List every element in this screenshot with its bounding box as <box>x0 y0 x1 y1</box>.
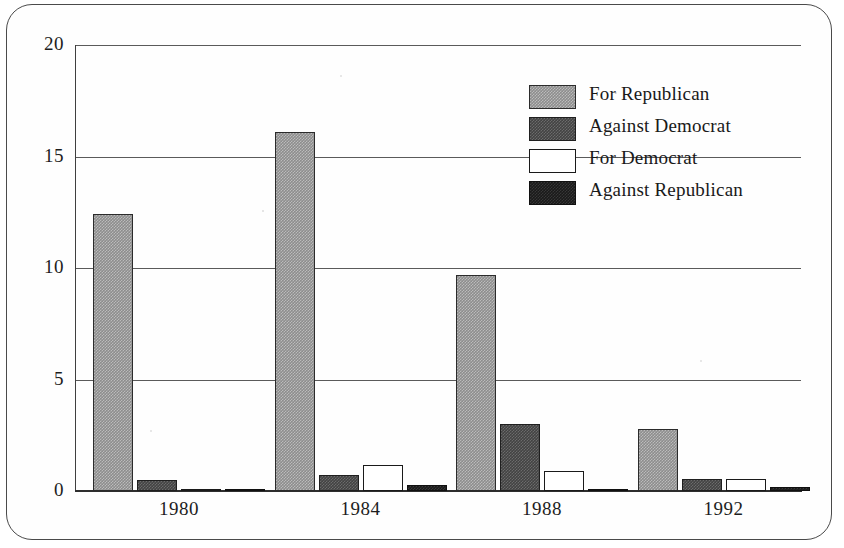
bar-for-republican-1992 <box>638 429 678 491</box>
bar-for-democrat-1992 <box>726 479 766 491</box>
x-tick-label: 1992 <box>654 498 794 520</box>
legend-label: Against Democrat <box>589 115 731 137</box>
bar-for-republican-1984 <box>275 132 315 491</box>
x-tick-label: 1980 <box>109 498 249 520</box>
legend-label: Against Republican <box>589 179 743 201</box>
x-tick-label: 1984 <box>291 498 431 520</box>
scan-artifact <box>262 210 264 212</box>
legend-label: For Democrat <box>589 147 697 169</box>
y-tick-label: 0 <box>8 479 64 501</box>
y-tick-label: 5 <box>8 368 64 390</box>
scan-artifact <box>700 360 702 362</box>
bar-against-democrat-1980 <box>137 480 177 491</box>
bar-against-democrat-1988 <box>500 424 540 491</box>
legend-item-for-democrat: For Democrat <box>529 146 789 178</box>
against-republican-swatch <box>529 181 576 205</box>
scan-artifact <box>615 92 617 94</box>
bar-for-democrat-1984 <box>363 465 403 491</box>
for-democrat-swatch <box>529 149 576 173</box>
against-democrat-swatch <box>529 117 576 141</box>
y-tick-label: 10 <box>8 256 64 278</box>
y-axis-tick-labels: 20151050 <box>0 0 64 548</box>
legend-item-against-democrat: Against Democrat <box>529 114 789 146</box>
bar-against-republican-1980 <box>225 489 265 492</box>
bar-for-democrat-1980 <box>181 489 221 492</box>
bar-for-republican-1988 <box>456 275 496 491</box>
bar-for-republican-1980 <box>93 214 133 491</box>
legend-item-for-republican: For Republican <box>529 82 789 114</box>
bar-against-republican-1984 <box>407 485 447 491</box>
scan-artifact <box>150 430 152 432</box>
y-tick-label: 15 <box>8 145 64 167</box>
for-republican-swatch <box>529 85 576 109</box>
bar-against-democrat-1984 <box>319 475 359 491</box>
legend-item-against-republican: Against Republican <box>529 178 789 210</box>
bar-chart: 20151050 1980198419881992 For Republican… <box>0 0 844 548</box>
bar-for-democrat-1988 <box>544 471 584 491</box>
bar-against-republican-1992 <box>770 487 810 491</box>
scan-artifact <box>340 75 342 77</box>
legend-label: For Republican <box>589 83 709 105</box>
bar-against-republican-1988 <box>588 489 628 492</box>
y-tick-label: 20 <box>8 33 64 55</box>
chart-legend: For RepublicanAgainst DemocratFor Democr… <box>529 82 789 210</box>
x-tick-label: 1988 <box>472 498 612 520</box>
bar-against-democrat-1992 <box>682 479 722 491</box>
x-axis-tick-labels: 1980198419881992 <box>75 498 801 532</box>
